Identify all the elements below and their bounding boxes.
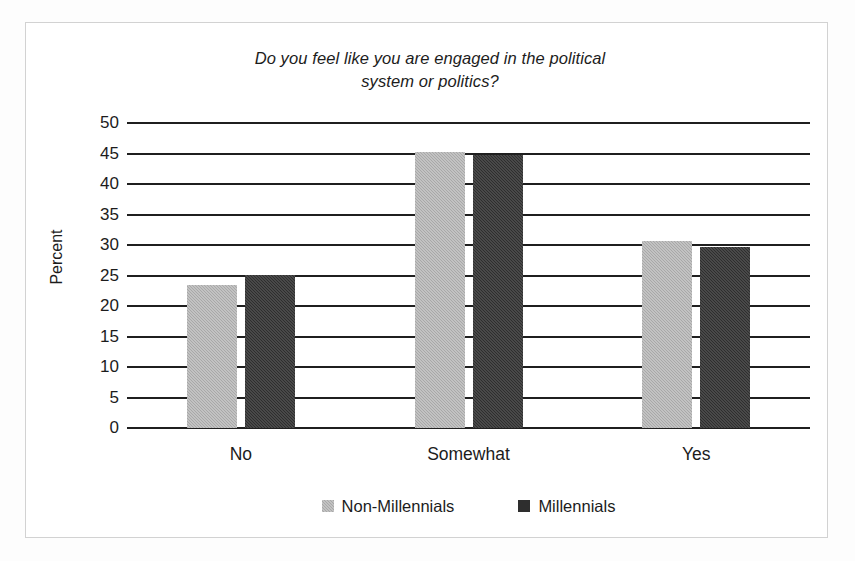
- bar-somewhat-non-millennials: [415, 152, 465, 428]
- bar-no-millennials: [245, 275, 295, 428]
- gridline-35: [127, 214, 810, 216]
- bar-somewhat-millennials: [473, 155, 523, 428]
- legend-item-non-millennials[interactable]: Non-Millennials: [322, 497, 455, 516]
- legend-label-non-millennials: Non-Millennials: [342, 497, 455, 516]
- y-axis-title: Percent: [48, 197, 66, 317]
- legend-swatch-non-millennials: [322, 500, 334, 512]
- legend-swatch-millennials: [518, 500, 530, 512]
- chart-title-line-2: system or politics?: [190, 70, 670, 93]
- legend-item-millennials[interactable]: Millennials: [518, 497, 615, 516]
- bar-yes-millennials: [700, 247, 750, 428]
- chart-title-line-1: Do you feel like you are engaged in the …: [190, 47, 670, 70]
- gridline-50: [127, 122, 810, 124]
- chart-title: Do you feel like you are engaged in the …: [190, 47, 670, 93]
- y-tick-label-45: 45: [79, 145, 119, 162]
- y-tick-label-15: 15: [79, 328, 119, 345]
- x-tick-label-yes: Yes: [582, 444, 810, 465]
- y-axis-tick-labels: 05101520253035404550: [75, 123, 119, 428]
- y-tick-label-25: 25: [79, 267, 119, 284]
- gridline-45: [127, 153, 810, 155]
- gridline-30: [127, 244, 810, 246]
- plot-area: [127, 123, 810, 428]
- gridline-40: [127, 183, 810, 185]
- y-tick-label-35: 35: [79, 206, 119, 223]
- chart-figure: Do you feel like you are engaged in the …: [0, 0, 855, 561]
- x-axis-tick-labels: NoSomewhatYes: [127, 444, 810, 470]
- bar-no-non-millennials: [187, 285, 237, 428]
- y-tick-label-5: 5: [79, 389, 119, 406]
- y-tick-label-0: 0: [79, 419, 119, 436]
- y-tick-label-20: 20: [79, 297, 119, 314]
- y-tick-label-40: 40: [79, 175, 119, 192]
- bar-yes-non-millennials: [642, 241, 692, 428]
- legend-label-millennials: Millennials: [538, 497, 615, 516]
- x-tick-label-no: No: [127, 444, 355, 465]
- x-tick-label-somewhat: Somewhat: [355, 444, 583, 465]
- y-tick-label-10: 10: [79, 358, 119, 375]
- y-tick-label-50: 50: [79, 114, 119, 131]
- chart-legend: Non-MillennialsMillennials: [127, 495, 810, 517]
- y-tick-label-30: 30: [79, 236, 119, 253]
